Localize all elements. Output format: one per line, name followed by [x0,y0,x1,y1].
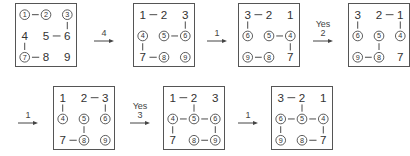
cell-number: 1 [59,91,65,104]
cell-number: 3 [182,8,188,21]
grid-graph: 321654987 [349,4,409,66]
cell-number: 1 [169,91,175,104]
number-grid-6: 123456789 [163,86,225,150]
cell-number: 7 [320,133,326,146]
grid-graph: 123456789 [134,4,194,66]
circled-number: 5 [267,31,271,40]
number-grid-4: 321654987 [348,3,410,67]
circled-number: 9 [279,136,283,145]
number-grid-1: 123456789 [15,3,77,67]
circled-number: 1 [23,10,27,19]
cell-number: 8 [43,50,49,63]
cell-number: 7 [169,133,175,146]
cell-number: 1 [320,91,326,104]
cell-number: 9 [64,50,70,63]
cell-number: 2 [376,8,382,21]
cell-number: 2 [266,8,272,21]
arrow-icon [206,22,228,52]
cell-number: 6 [64,29,70,42]
cell-number: 3 [102,91,108,104]
circled-number: 6 [279,114,283,123]
circled-number: 8 [82,136,86,145]
cell-number: 7 [139,50,145,63]
circled-number: 7 [23,53,27,62]
cell-number: 3 [354,8,360,21]
cell-number: 2 [191,91,197,104]
circled-number: 5 [192,114,196,123]
circled-number: 9 [183,53,187,62]
number-grid-3: 321654987 [238,3,300,67]
circled-number: 5 [82,114,86,123]
transition-arrow-3: Yes 2 [312,22,334,52]
circled-number: 5 [377,31,381,40]
arrow-icon [237,104,259,134]
cell-number: 1 [139,8,145,21]
circled-number: 2 [44,10,48,19]
circled-number: 4 [141,31,145,40]
circled-number: 5 [162,31,166,40]
cell-number: 1 [287,8,293,21]
circled-number: 5 [300,114,304,123]
cell-number: 3 [277,91,283,104]
number-grid-5: 123456789 [53,86,115,150]
circled-number: 4 [171,114,175,123]
arrow-icon [129,104,151,134]
circled-number: 9 [103,136,107,145]
cell-number: 2 [299,91,305,104]
circled-number: 3 [65,10,69,19]
cell-number: 3 [212,91,218,104]
circled-number: 4 [288,31,292,40]
circled-number: 9 [213,136,217,145]
cell-number: 7 [59,133,65,146]
circled-number: 6 [213,114,217,123]
circled-number: 6 [183,31,187,40]
circled-number: 6 [356,31,360,40]
transition-arrow-6: 1 [237,104,259,134]
grid-graph: 123456789 [54,87,114,149]
circled-number: 4 [398,31,402,40]
circled-number: 8 [192,136,196,145]
arrow-icon [17,104,39,134]
circled-number: 4 [321,114,325,123]
transition-arrow-4: 1 [17,104,39,134]
cell-number: 7 [397,50,403,63]
cell-number: 7 [287,50,293,63]
arrow-icon [312,22,334,52]
transition-arrow-2: 1 [206,22,228,52]
transition-arrow-5: Yes 3 [129,104,151,134]
grid-graph: 321654987 [239,4,299,66]
circled-number: 8 [162,53,166,62]
cell-number: 4 [21,29,28,42]
circled-number: 9 [246,53,250,62]
circled-number: 4 [61,114,65,123]
grid-graph: 321654987 [272,87,332,149]
cell-number: 2 [81,91,87,104]
cell-number: 5 [43,29,49,42]
cell-number: 1 [397,8,403,21]
number-grid-2: 123456789 [133,3,195,67]
cell-number: 3 [244,8,250,21]
circled-number: 8 [267,53,271,62]
cell-number: 2 [161,8,167,21]
grid-graph: 123456789 [164,87,224,149]
grid-graph: 123456789 [16,4,76,66]
circled-number: 6 [246,31,250,40]
circled-number: 9 [356,53,360,62]
circled-number: 8 [300,136,304,145]
arrow-icon [93,22,115,52]
circled-number: 8 [377,53,381,62]
circled-number: 6 [103,114,107,123]
transition-arrow-1: 4 [93,22,115,52]
number-grid-7: 321654987 [271,86,333,150]
